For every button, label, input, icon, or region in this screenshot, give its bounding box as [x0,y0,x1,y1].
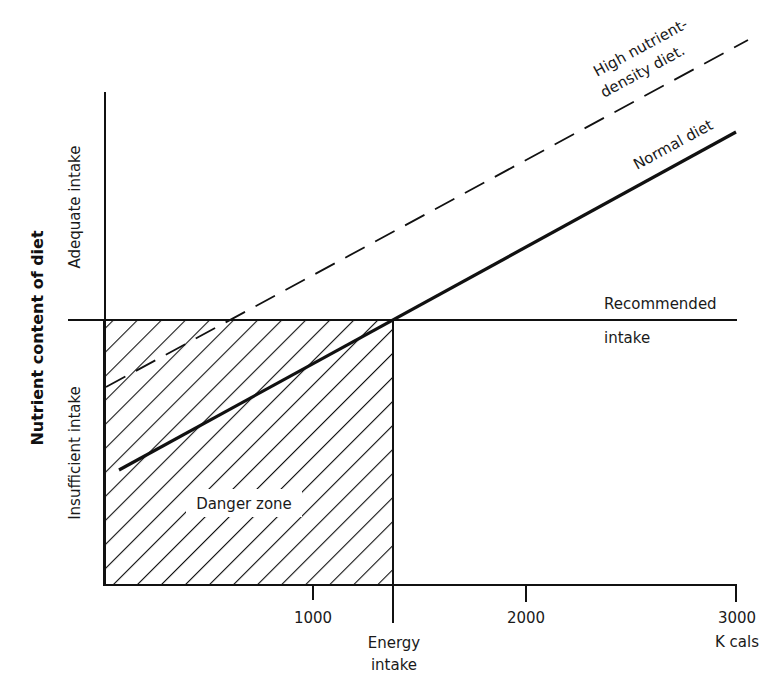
recommended-label-2: intake [604,329,650,347]
nutrient-diagram: Danger zone 1000 2000 3000 K cals Energy… [0,0,777,695]
energy-intake-label-1: Energy [368,634,421,652]
danger-zone-label: Danger zone [196,495,292,513]
tick-label-2000: 2000 [507,609,545,627]
tick-label-3000: 3000 [718,609,756,627]
energy-intake-label-2: intake [371,656,417,674]
danger-zone-region [104,320,393,585]
adequate-intake-label: Adequate intake [66,146,84,269]
x-unit-label: K cals [715,633,759,651]
insufficient-intake-label: Insufficient intake [66,386,84,520]
recommended-label-1: Recommended [604,295,717,313]
tick-label-1000: 1000 [294,609,332,627]
high-density-diet-line [106,40,748,387]
y-axis-title: Nutrient content of diet [28,230,47,446]
